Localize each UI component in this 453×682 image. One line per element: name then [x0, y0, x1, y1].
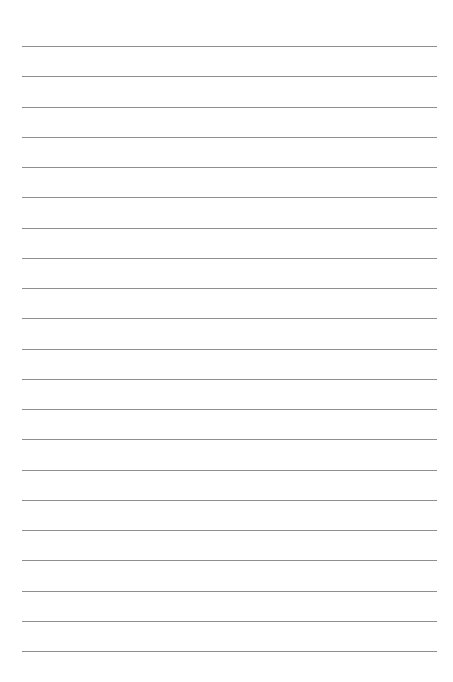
- ruled-line: [22, 76, 437, 77]
- ruled-line: [22, 197, 437, 198]
- ruled-line: [22, 530, 437, 531]
- ruled-line: [22, 560, 437, 561]
- ruled-line: [22, 46, 437, 47]
- ruled-line: [22, 258, 437, 259]
- ruled-line: [22, 439, 437, 440]
- ruled-line: [22, 409, 437, 410]
- ruled-line: [22, 651, 437, 652]
- ruled-line: [22, 470, 437, 471]
- ruled-line: [22, 500, 437, 501]
- ruled-line: [22, 167, 437, 168]
- lined-paper-page: [0, 0, 453, 682]
- ruled-line: [22, 591, 437, 592]
- ruled-line: [22, 349, 437, 350]
- ruled-line: [22, 137, 437, 138]
- ruled-line: [22, 288, 437, 289]
- ruled-line: [22, 621, 437, 622]
- ruled-line: [22, 107, 437, 108]
- ruled-line: [22, 228, 437, 229]
- ruled-line: [22, 318, 437, 319]
- ruled-line: [22, 379, 437, 380]
